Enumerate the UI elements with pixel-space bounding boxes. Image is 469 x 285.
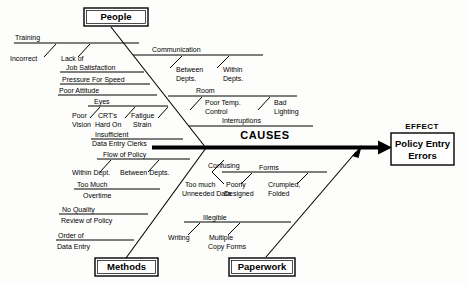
label-interruptions: Interruptions	[222, 117, 261, 125]
label-crts: CRT's	[98, 112, 118, 119]
label-training: Training	[15, 34, 40, 42]
methods-box-label: Methods	[107, 261, 146, 272]
label-incorrect: Incorrect	[10, 55, 37, 62]
label-within-dept: Within Dept.	[72, 169, 110, 177]
label-fatigue: Fatigue	[131, 112, 154, 120]
twig-fatigue	[158, 107, 168, 118]
twig-writing	[188, 223, 200, 235]
label-room: Room	[196, 87, 215, 94]
label-insufficient: Insufficient	[95, 131, 128, 138]
effect-label-line2: Errors	[408, 150, 437, 161]
people-box-label: People	[100, 11, 131, 22]
paperwork-box-label: Paperwork	[238, 261, 287, 272]
label-review-of-policy: Review of Policy	[61, 217, 113, 225]
label-flow-of-policy: Flow of Policy	[103, 151, 147, 159]
label-writing: Writing	[168, 234, 190, 242]
label-poorly: Poorly	[226, 181, 246, 189]
causes-label: CAUSES	[240, 129, 289, 141]
label-strain: Strain	[133, 121, 151, 128]
label-pressure-for-speed: Pressure For Speed	[62, 76, 125, 84]
label-folded: Folded	[268, 190, 290, 197]
label-confusing: Confusing	[208, 162, 240, 170]
label-data-entry-clerks: Data Entry Clerks	[92, 140, 147, 148]
label-depts1: Depts.	[176, 75, 196, 83]
label-eyes: Eyes	[94, 98, 110, 106]
twig-incorrect	[44, 44, 56, 57]
label-bad: Bad	[274, 99, 287, 106]
label-within: Within	[223, 66, 243, 73]
label-poor-attitude: Poor Attitude	[59, 87, 99, 94]
category-box-people[interactable]: People	[84, 8, 148, 26]
environment-causes: Communication Between Depts. Within Dept…	[133, 46, 313, 126]
label-poor: Poor	[72, 112, 87, 119]
label-between-depts: Between Depts.	[120, 169, 169, 177]
effect-label-line1: Policy Entry	[395, 138, 451, 149]
label-too-much2: Too much	[185, 181, 215, 188]
label-no-quality: No Quality	[62, 206, 95, 214]
twig-poor-temp	[190, 97, 202, 110]
paperwork-bone	[266, 152, 356, 257]
label-depts2: Depts.	[223, 75, 243, 83]
label-multiple: Multiple	[209, 234, 233, 242]
label-lighting: Lighting	[274, 108, 299, 116]
label-data-entry: Data Entry	[57, 243, 91, 251]
fishbone-diagram-canvas: CAUSES EFFECT Policy Entry Errors People…	[0, 0, 469, 285]
label-designed: Designed	[224, 190, 254, 198]
label-job-satisfaction: Job Satisfaction	[66, 64, 116, 71]
spine-arrowhead	[378, 141, 392, 155]
paperwork-causes: Confusing Forms Too much Unneeded Data P…	[168, 160, 327, 251]
methods-bone	[126, 148, 206, 258]
label-lack-of: Lack of	[61, 55, 84, 62]
label-crumpled: Crumpled,	[268, 181, 300, 189]
label-communication: Communication	[152, 46, 201, 53]
label-too-much: Too Much	[77, 181, 107, 188]
label-poor-temp: Poor Temp.	[205, 99, 241, 107]
label-overtime: Overtime	[83, 192, 112, 199]
fishbone-svg: CAUSES EFFECT Policy Entry Errors People…	[0, 0, 469, 285]
category-box-methods[interactable]: Methods	[95, 258, 158, 276]
label-vision: Vision	[72, 121, 91, 128]
label-order-of: Order of	[58, 232, 84, 239]
label-control: Control	[205, 108, 228, 115]
twig-bad-lighting	[258, 97, 270, 110]
effect-group: EFFECT Policy Entry Errors	[391, 122, 454, 165]
label-illegible: Illegible	[203, 214, 227, 222]
paperwork-bone-group	[266, 145, 362, 257]
label-copy-forms: Copy Forms	[208, 243, 247, 251]
label-hard-on: Hard On	[95, 121, 122, 128]
effect-title: EFFECT	[405, 122, 439, 131]
twig-lack-of	[78, 44, 90, 57]
label-forms: Forms	[259, 164, 279, 171]
category-box-paperwork[interactable]: Paperwork	[229, 258, 295, 276]
label-between: Between	[176, 66, 203, 73]
